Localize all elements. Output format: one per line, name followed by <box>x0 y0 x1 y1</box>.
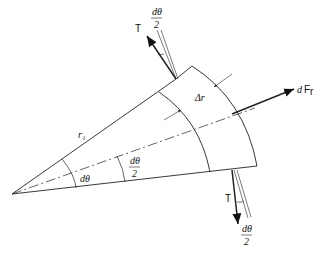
mid-half-angle-num: dθ <box>130 155 140 166</box>
dtheta-label: dθ <box>80 173 90 184</box>
top-tension-label: T <box>135 23 141 34</box>
top-tension-arrow <box>147 36 176 79</box>
outer-arc <box>192 66 257 166</box>
bottom-half-angle-num: dθ <box>242 223 252 234</box>
diagram-canvas: T dθ 2 r₁ Δr dθ dθ 2 dFr T dθ 2 <box>0 0 326 253</box>
ring-element-diagram: T dθ 2 r₁ Δr dθ dθ 2 dFr T dθ 2 <box>0 0 326 253</box>
bottom-half-angle-den: 2 <box>244 236 249 247</box>
thickness-label: Δr <box>194 92 205 103</box>
half-dtheta-arc <box>117 156 125 182</box>
bottom-tension-arrow <box>232 170 238 224</box>
radius-label: r₁ <box>78 129 85 140</box>
radial-force-label: dFr <box>297 84 314 97</box>
center-dashdot-line <box>12 108 255 194</box>
inner-arc <box>159 92 210 172</box>
thickness-arrow-inner <box>164 110 181 120</box>
thickness-arrow-outer <box>214 74 232 87</box>
top-half-angle-den: 2 <box>154 19 159 30</box>
top-edge <box>176 66 192 79</box>
bottom-angle-ref-2 <box>237 170 251 217</box>
radial-force-arrow <box>232 89 294 114</box>
mid-half-angle-den: 2 <box>132 168 137 179</box>
bottom-tension-label: T <box>225 193 231 204</box>
top-angle-arc <box>158 54 164 55</box>
top-half-angle-num: dθ <box>152 6 162 17</box>
top-angle-ref-2 <box>161 30 178 79</box>
upper-radial-line <box>12 79 176 194</box>
